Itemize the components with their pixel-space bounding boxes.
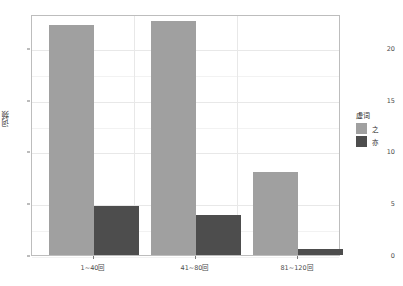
y-tick-label-20: 20: [387, 45, 395, 53]
y-tick-mark-0: [27, 256, 30, 257]
gridline-major-0: [32, 257, 339, 258]
bar-zhi-41-80: [151, 21, 196, 255]
bar-zhi-81-120: [253, 172, 298, 255]
legend-swatch-yi: [356, 136, 367, 147]
legend-label-yi: 亦: [372, 137, 379, 147]
x-tick-mark-1: [93, 256, 94, 259]
y-tick-mark-10: [27, 152, 30, 153]
legend-item-yi[interactable]: 亦: [356, 136, 402, 147]
x-tick-label-3: 81~120回: [280, 262, 313, 272]
legend: 虚词 之 亦: [356, 110, 402, 149]
legend-swatch-zhi: [356, 123, 367, 134]
bar-zhi-1-40: [49, 25, 94, 255]
bar-yi-81-120: [298, 249, 343, 255]
y-tick-label-10: 10: [387, 148, 395, 156]
y-tick-label-5: 5: [391, 200, 395, 208]
y-axis-label: 词频: [0, 111, 13, 129]
x-tick-mark-2: [195, 256, 196, 259]
x-tick-label-1: 1~40回: [81, 262, 106, 272]
bar-yi-1-40: [94, 206, 139, 255]
x-tick-mark-3: [297, 256, 298, 259]
y-tick-label-0: 0: [391, 252, 395, 260]
chart-figure: 词频 20 15 10 5 0 1~40回 41~80回 81~120回 虚词 …: [0, 0, 403, 286]
x-tick-label-2: 41~80回: [181, 262, 210, 272]
legend-title: 虚词: [356, 110, 402, 120]
y-tick-mark-20: [27, 48, 30, 49]
y-tick-label-15: 15: [387, 97, 395, 105]
bar-yi-41-80: [196, 215, 241, 255]
legend-label-zhi: 之: [372, 124, 379, 134]
legend-item-zhi[interactable]: 之: [356, 123, 402, 134]
y-tick-mark-15: [27, 100, 30, 101]
y-tick-mark-5: [27, 204, 30, 205]
plot-panel: [31, 15, 340, 256]
y-axis-label-text: 词频: [2, 111, 10, 127]
